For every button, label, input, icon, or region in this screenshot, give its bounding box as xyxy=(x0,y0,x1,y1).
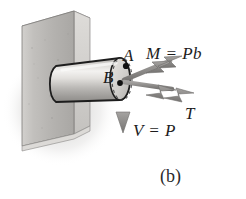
mechanics-diagram xyxy=(0,0,246,199)
shear-label: V = P xyxy=(133,122,176,139)
point-B-marker xyxy=(117,80,123,86)
torque-label: T xyxy=(185,105,194,122)
figure-caption: (b) xyxy=(160,166,181,187)
moment-label: M = Pb xyxy=(146,45,202,62)
point-label-B: B xyxy=(103,69,113,86)
point-label-A: A xyxy=(123,47,133,64)
figure-container: A B M = Pb T V = P (b) xyxy=(0,0,246,199)
torque-vector-arrow xyxy=(124,82,194,102)
